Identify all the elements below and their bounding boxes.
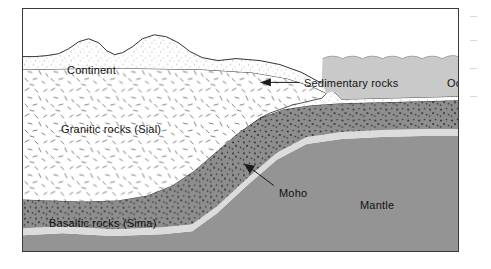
label-mantle: Mantle <box>360 199 394 211</box>
label-basaltic-rocks: Basaltic rocks (Sima) <box>49 217 157 229</box>
label-moho: Moho <box>279 187 307 199</box>
margin-tick <box>470 16 477 17</box>
margin-tick <box>470 40 477 41</box>
figure-frame: Continent Sedimentary rocks Ocean Granit… <box>22 8 459 252</box>
margin-tick <box>470 68 477 69</box>
label-granitic-rocks: Granitic rocks (Sial) <box>61 123 161 135</box>
screenshot-root: Continent Sedimentary rocks Ocean Granit… <box>0 0 491 269</box>
margin-artifacts <box>470 10 488 120</box>
label-sedimentary-rocks: Sedimentary rocks <box>304 77 399 89</box>
label-ocean: Ocean <box>447 77 459 89</box>
margin-tick <box>470 96 477 97</box>
label-continent: Continent <box>67 64 116 76</box>
